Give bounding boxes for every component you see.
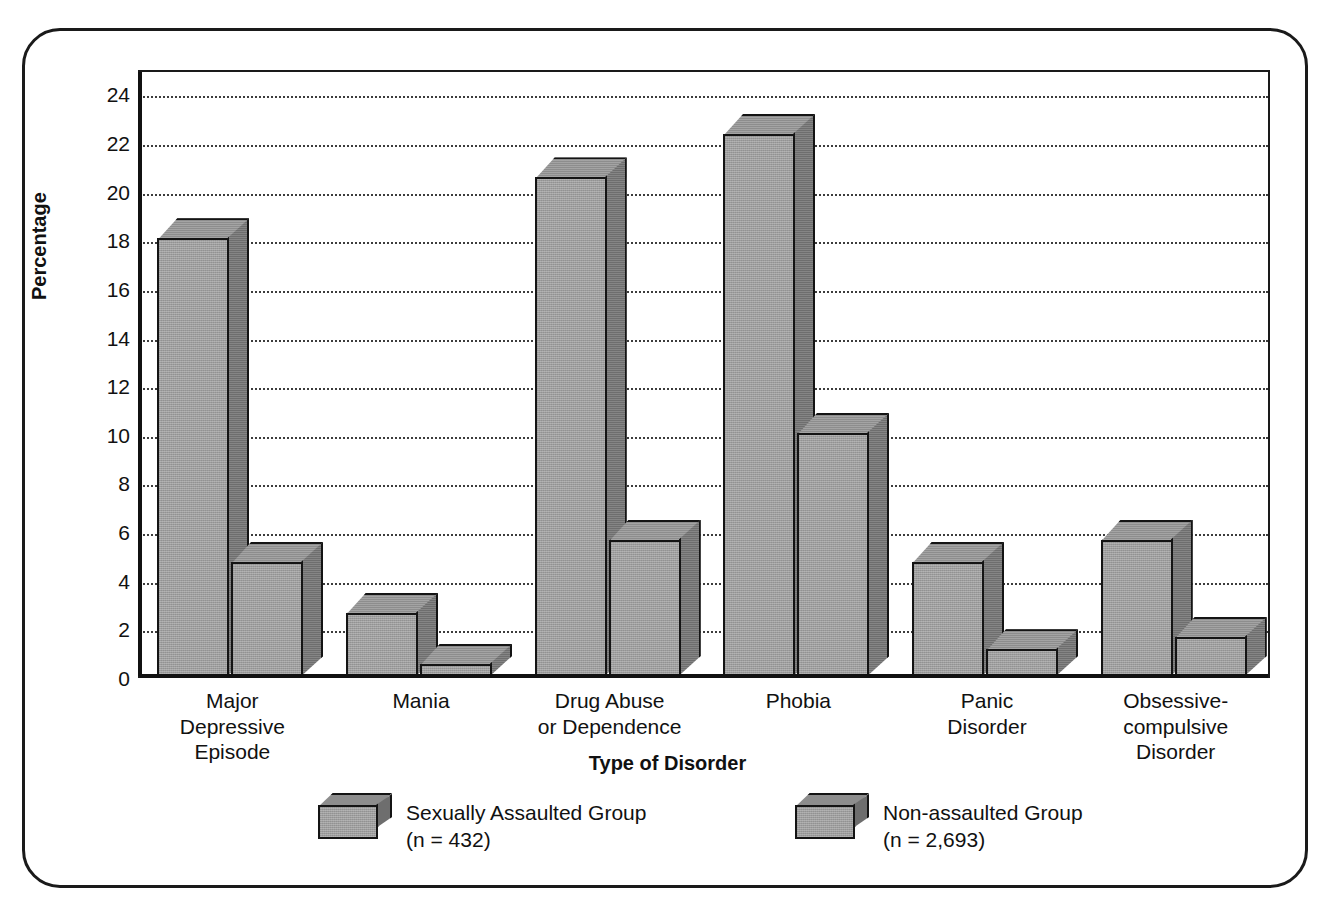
bar <box>986 629 1078 676</box>
bar-front-face <box>346 613 418 676</box>
y-axis-tick-label: 6 <box>84 522 130 543</box>
y-axis-tick-label: 12 <box>84 376 130 397</box>
legend-swatch-front <box>318 805 378 839</box>
y-axis-tick-label: 14 <box>84 327 130 348</box>
bar-side-face <box>301 542 323 676</box>
gridline <box>140 96 1268 98</box>
legend-item[interactable]: Sexually Assaulted Group (n = 432) <box>318 793 646 854</box>
gridline <box>140 437 1268 439</box>
legend-label: Sexually Assaulted Group (n = 432) <box>406 793 646 854</box>
bar-front-face <box>986 649 1058 676</box>
gridline <box>140 340 1268 342</box>
bar <box>609 520 701 676</box>
bar-front-face <box>231 562 303 676</box>
gridline <box>140 485 1268 487</box>
y-axis-tick-label: 0 <box>84 668 130 689</box>
gridline <box>140 534 1268 536</box>
legend-label: Non-assaulted Group (n = 2,693) <box>883 793 1083 854</box>
legend-swatch-icon <box>795 793 869 839</box>
y-axis-tick-label: 20 <box>84 181 130 202</box>
x-axis-line <box>140 674 1268 678</box>
y-axis-tick-label: 10 <box>84 424 130 445</box>
bar <box>231 542 323 676</box>
y-axis-tick-label: 8 <box>84 473 130 494</box>
y-axis-tick-label: 18 <box>84 230 130 251</box>
legend-swatch-front <box>795 805 855 839</box>
bar-front-face <box>723 134 795 676</box>
bar-side-face <box>867 413 889 676</box>
x-axis-category-label: Phobia <box>704 688 893 714</box>
y-axis-tick-label: 4 <box>84 570 130 591</box>
gridline <box>140 291 1268 293</box>
x-axis-category-label: Drug Abuse or Dependence <box>515 688 704 739</box>
bar-front-face <box>535 177 607 676</box>
bar-front-face <box>157 238 229 676</box>
bar-front-face <box>797 433 869 676</box>
y-axis-tick-label: 16 <box>84 278 130 299</box>
y-axis-tick-labels: 242220181614121086420 <box>78 70 130 678</box>
bar-side-face <box>679 520 701 676</box>
bar-front-face <box>1175 637 1247 676</box>
legend-swatch-icon <box>318 793 392 839</box>
y-axis-tick-label: 2 <box>84 619 130 640</box>
legend-item[interactable]: Non-assaulted Group (n = 2,693) <box>795 793 1083 854</box>
bar <box>420 644 512 676</box>
gridline <box>140 145 1268 147</box>
y-axis-tick-label: 22 <box>84 132 130 153</box>
bar <box>797 413 889 676</box>
gridline <box>140 194 1268 196</box>
x-axis-category-label: Mania <box>327 688 516 714</box>
bar-front-face <box>912 562 984 676</box>
plot-area <box>138 70 1270 678</box>
bar <box>1175 617 1267 676</box>
y-axis-tick-label: 24 <box>84 84 130 105</box>
bar-front-face <box>609 540 681 676</box>
gridline <box>140 388 1268 390</box>
gridline <box>140 242 1268 244</box>
y-axis-title: Percentage <box>28 192 51 300</box>
bar-front-face <box>1101 540 1173 676</box>
figure-root: 242220181614121086420 Percentage Major D… <box>0 0 1335 921</box>
y-axis-line <box>138 72 142 676</box>
x-axis-title: Type of Disorder <box>0 752 1335 775</box>
x-axis-category-label: Panic Disorder <box>893 688 1082 739</box>
chart-legend: Sexually Assaulted Group (n = 432)Non-as… <box>0 793 1335 873</box>
